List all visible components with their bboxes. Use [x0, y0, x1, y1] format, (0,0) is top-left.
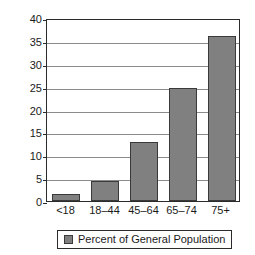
y-tick-mark [43, 66, 47, 67]
y-tick-label: 30 [18, 60, 42, 71]
y-tick-mark [43, 180, 47, 181]
y-tick-label: 0 [18, 197, 42, 208]
legend-swatch-icon [64, 235, 73, 244]
y-tick-mark [43, 112, 47, 113]
y-tick-label: 40 [18, 14, 42, 25]
bar [91, 181, 119, 201]
bar [130, 142, 158, 201]
bar [208, 36, 236, 201]
bar [169, 88, 197, 201]
y-tick-mark [43, 157, 47, 158]
plot-area [46, 19, 240, 202]
y-tick-label: 25 [18, 83, 42, 94]
chart-legend: Percent of General Population [57, 230, 232, 249]
y-tick-label: 5 [18, 174, 42, 185]
y-tick-mark [43, 89, 47, 90]
y-tick-label: 10 [18, 151, 42, 162]
y-tick-label: 20 [18, 106, 42, 117]
x-axis: <1818–4445–6465–7475+ [46, 203, 240, 219]
legend-entry-label: Percent of General Population [78, 234, 225, 245]
y-tick-label: 15 [18, 128, 42, 139]
y-axis: 0510152025303540 [14, 0, 42, 255]
bar [52, 194, 80, 201]
y-tick-mark [43, 43, 47, 44]
y-tick-mark [43, 20, 47, 21]
x-tick-label: 75+ [201, 205, 240, 216]
y-tick-label: 35 [18, 37, 42, 48]
x-tick-label: <18 [46, 205, 85, 216]
bar-chart: 0510152025303540 <1818–4445–6465–7475+ P… [0, 0, 255, 255]
y-tick-mark [43, 134, 47, 135]
x-tick-label: 18–44 [85, 205, 124, 216]
x-tick-label: 45–64 [124, 205, 163, 216]
x-tick-label: 65–74 [162, 205, 201, 216]
